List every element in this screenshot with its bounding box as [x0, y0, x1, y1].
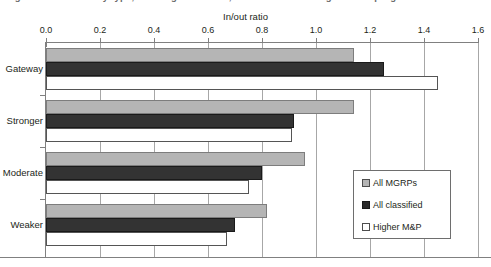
bar-gateway-series-1	[46, 48, 354, 62]
legend-label-all-mgrps: All MGRPs	[373, 178, 417, 188]
legend-item-all-mgrps: All MGRPs	[362, 178, 417, 188]
bar-stronger-series-3	[46, 128, 292, 142]
legend-label-all-classified: All classified	[373, 200, 423, 210]
x-axis-title: In/out ratio	[0, 11, 491, 22]
category-separator-tick	[40, 199, 46, 200]
clipped-caption: Figure: In/out ratio by type, showing al…	[6, 0, 486, 5]
category-separator-tick	[40, 147, 46, 148]
category-label-gateway: Gateway	[0, 63, 43, 74]
x-tick-label: 0.2	[80, 25, 120, 35]
x-tick-label: 0.8	[242, 25, 282, 35]
x-tick-mark	[46, 38, 47, 47]
x-tick-label: 0.0	[26, 25, 66, 35]
bar-stronger-series-1	[46, 100, 354, 114]
x-tick-label: 1.6	[458, 25, 491, 35]
bar-moderate-series-3	[46, 180, 249, 194]
bar-chart-figure: Figure: In/out ratio by type, showing al…	[0, 0, 491, 267]
gridline	[478, 43, 479, 257]
chart-legend: All MGRPs All classified Higher M&P	[353, 170, 451, 239]
x-tick-label: 1.0	[296, 25, 336, 35]
legend-item-higher-mp: Higher M&P	[362, 222, 422, 232]
category-separator-tick	[40, 95, 46, 96]
x-tick-label: 1.2	[350, 25, 390, 35]
bar-weaker-series-2	[46, 218, 235, 232]
legend-swatch-all-mgrps	[362, 179, 370, 187]
bar-weaker-series-1	[46, 204, 267, 218]
category-label-moderate: Moderate	[0, 167, 43, 178]
bar-gateway-series-3	[46, 76, 438, 90]
bar-weaker-series-3	[46, 232, 227, 246]
x-tick-label: 0.4	[134, 25, 174, 35]
bar-gateway-series-2	[46, 62, 384, 76]
x-tick-label: 0.6	[188, 25, 228, 35]
legend-swatch-higher-mp	[362, 223, 370, 231]
bar-moderate-series-1	[46, 152, 305, 166]
bar-stronger-series-2	[46, 114, 294, 128]
bar-moderate-series-2	[46, 166, 262, 180]
legend-label-higher-mp: Higher M&P	[373, 222, 422, 232]
figure-bottom-rule	[0, 257, 491, 258]
category-label-stronger: Stronger	[0, 115, 43, 126]
category-label-weaker: Weaker	[0, 219, 43, 230]
x-tick-label: 1.4	[404, 25, 444, 35]
legend-item-all-classified: All classified	[362, 200, 423, 210]
legend-swatch-all-classified	[362, 201, 370, 209]
